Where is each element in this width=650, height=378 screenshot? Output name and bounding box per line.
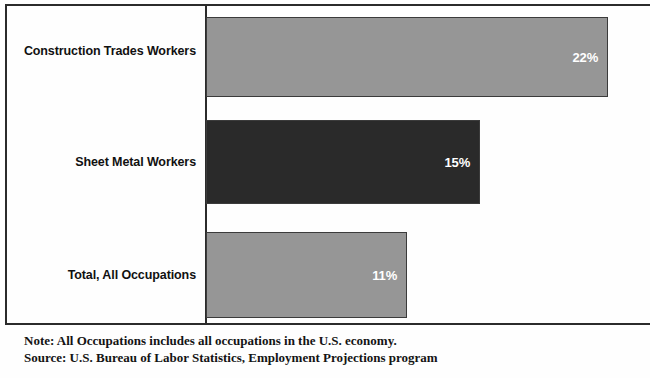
bar-value-total-all-occupations: 11% xyxy=(372,268,406,283)
bar-construction-trades-workers[interactable]: 22% xyxy=(206,17,608,97)
category-label-sheet-metal-workers: Sheet Metal Workers xyxy=(10,155,196,169)
bar-total-all-occupations[interactable]: 11% xyxy=(206,232,407,318)
footer-notes: Note: All Occupations includes all occup… xyxy=(24,332,634,366)
chart-row: Total, All Occupations 11% xyxy=(0,232,650,318)
chart-row: Sheet Metal Workers 15% xyxy=(0,120,650,204)
category-label-construction-trades-workers: Construction Trades Workers xyxy=(10,44,196,58)
bar-value-sheet-metal-workers: 15% xyxy=(445,155,479,170)
chart-row: Construction Trades Workers 22% xyxy=(0,17,650,97)
footer-source-line: Source: U.S. Bureau of Labor Statistics,… xyxy=(24,349,634,366)
category-label-total-all-occupations: Total, All Occupations xyxy=(10,268,196,282)
bar-sheet-metal-workers[interactable]: 15% xyxy=(206,120,480,204)
bar-chart-figure: Construction Trades Workers 22% Sheet Me… xyxy=(0,0,650,378)
bar-value-construction-trades-workers: 22% xyxy=(573,50,607,65)
footer-note-line: Note: All Occupations includes all occup… xyxy=(24,332,634,349)
plot-area: Construction Trades Workers 22% Sheet Me… xyxy=(0,4,650,324)
